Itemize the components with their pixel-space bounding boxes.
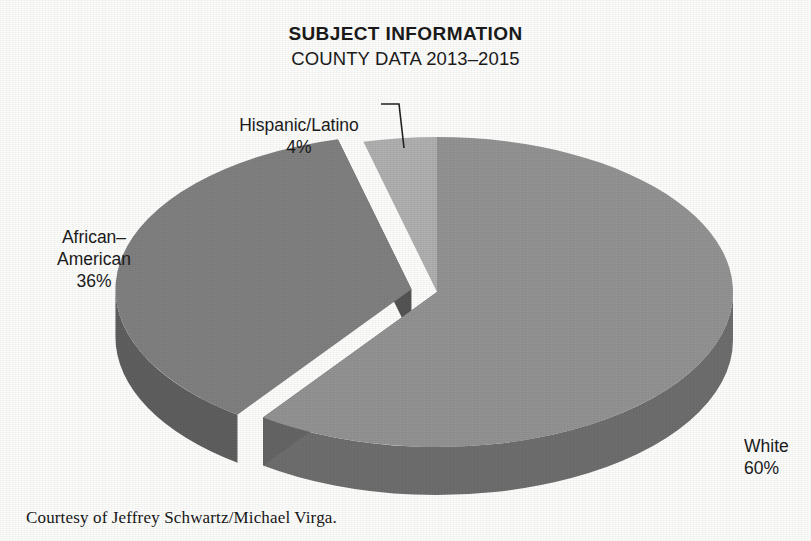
slice-label-hispanic: Hispanic/Latino 4%	[196, 92, 402, 180]
slice-label-hispanic-percent: 4%	[196, 136, 402, 158]
pie-chart-figure: SUBJECT INFORMATION COUNTY DATA 2013–201…	[0, 0, 811, 541]
slice-label-african-american-name: African– American	[57, 227, 131, 269]
figure-caption: Courtesy of Jeffrey Schwartz/Michael Vir…	[26, 508, 337, 528]
slice-label-white: White 60%	[744, 413, 806, 501]
slice-label-african-american: African– American 36%	[18, 204, 170, 314]
slice-label-white-name: White	[744, 436, 789, 456]
slice-label-white-percent: 60%	[744, 457, 806, 479]
slice-label-african-american-percent: 36%	[18, 270, 170, 292]
slice-label-hispanic-name: Hispanic/Latino	[239, 115, 359, 135]
